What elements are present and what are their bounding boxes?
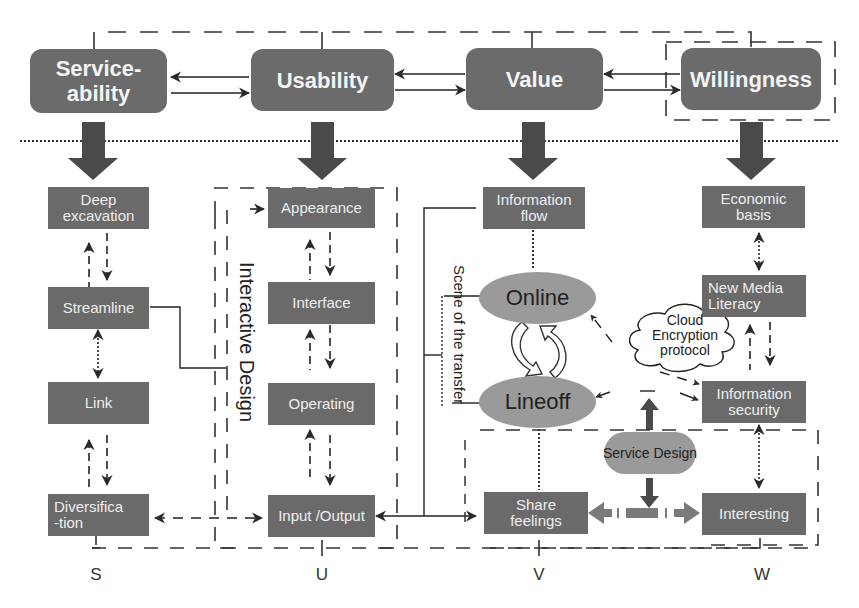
- interface-label: Interface: [292, 295, 350, 311]
- deep-excavation-line2: excavation: [63, 207, 135, 224]
- box-economic-basis: Economicbasis: [702, 186, 805, 228]
- economic-basis-line1: Economic: [721, 190, 787, 207]
- node-willingness: Willingness: [681, 48, 821, 110]
- information-security-line2: security: [728, 401, 780, 418]
- serviceability-line1: Service-: [56, 56, 142, 81]
- diversification-line1: Diversifica: [54, 498, 123, 515]
- service-design-label: Service Design: [603, 445, 697, 461]
- box-streamline: Streamline: [48, 287, 149, 329]
- cloud-encryption-protocol: Cloud Encryption protocol: [635, 313, 735, 358]
- axis-label-w: W: [752, 565, 772, 585]
- interactive-design-label: Interactive Design: [235, 262, 258, 422]
- deep-excavation-line1: Deep: [81, 191, 117, 208]
- share-feelings-line2: feelings: [510, 512, 562, 529]
- economic-basis-line2: basis: [736, 206, 771, 223]
- streamline-label: Streamline: [63, 300, 135, 316]
- cloud-line1: Cloud: [667, 312, 704, 328]
- lineoff-label: Lineoff: [505, 389, 571, 415]
- ellipse-lineoff: Lineoff: [479, 376, 596, 428]
- information-security-line1: Information: [716, 385, 791, 402]
- node-value: Value: [466, 48, 603, 110]
- serviceability-line2: ability: [67, 81, 131, 106]
- box-diversification: Diversifica-tion: [48, 494, 149, 536]
- online-label: Online: [506, 285, 570, 311]
- axis-label-u: U: [312, 565, 332, 585]
- ellipse-service-design: Service Design: [604, 432, 696, 474]
- input-output-label: Input /Output: [278, 508, 365, 524]
- axis-label-s: S: [86, 565, 106, 585]
- box-share-feelings: Sharefeelings: [484, 492, 588, 534]
- information-flow-line1: Information: [496, 191, 571, 208]
- cloud-line3: protocol: [660, 342, 710, 358]
- interesting-label: Interesting: [719, 506, 789, 522]
- scene-of-transfer-label: Scene of the transfer: [451, 265, 468, 404]
- cloud-line2: Encryption: [652, 327, 718, 343]
- diversification-line2: -tion: [54, 514, 83, 531]
- node-serviceability: Service-ability: [30, 49, 167, 113]
- willingness-label: Willingness: [690, 67, 812, 92]
- box-input-output: Input /Output: [268, 495, 375, 537]
- share-feelings-line1: Share: [516, 496, 556, 513]
- usability-label: Usability: [277, 68, 369, 93]
- box-deep-excavation: Deepexcavation: [48, 187, 149, 229]
- box-link: Link: [48, 382, 149, 424]
- box-new-media-literacy: New MediaLiteracy: [702, 275, 806, 317]
- value-label: Value: [506, 67, 563, 92]
- diagram-canvas: Service-ability Usability Value Willingn…: [0, 0, 859, 608]
- box-interface: Interface: [268, 282, 375, 324]
- node-usability: Usability: [251, 49, 394, 111]
- operating-label: Operating: [289, 396, 355, 412]
- box-information-security: Informationsecurity: [702, 381, 806, 423]
- box-operating: Operating: [268, 383, 375, 425]
- information-flow-line2: flow: [521, 207, 548, 224]
- box-appearance: Appearance: [268, 188, 375, 228]
- appearance-label: Appearance: [281, 200, 362, 216]
- box-interesting: Interesting: [702, 493, 806, 535]
- new-media-literacy-line1: New Media: [708, 279, 783, 296]
- axis-label-v: V: [529, 565, 549, 585]
- link-label: Link: [85, 395, 113, 411]
- new-media-literacy-line2: Literacy: [708, 295, 761, 312]
- ellipse-online: Online: [479, 272, 596, 324]
- box-information-flow: Informationflow: [483, 187, 585, 229]
